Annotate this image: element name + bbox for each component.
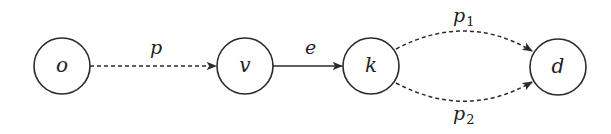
- graph-diagram: p e p1 p2 o v k: [0, 0, 611, 134]
- node-d: d: [530, 39, 586, 95]
- node-k: k: [343, 38, 399, 94]
- node-k-label: k: [365, 53, 377, 77]
- node-v-label: v: [239, 53, 251, 77]
- edge-o-v-label: p: [150, 36, 162, 58]
- edge-k-d-lower: p2: [396, 82, 532, 127]
- edge-o-v: p: [90, 36, 216, 66]
- diagram-svg: p e p1 p2 o v k: [0, 0, 611, 134]
- edge-k-d-lower-path: [396, 82, 532, 101]
- edge-v-k-label: e: [305, 36, 316, 58]
- node-o: o: [34, 38, 90, 94]
- edge-v-k: e: [273, 36, 342, 66]
- edge-k-d-upper-label: p1: [453, 4, 474, 29]
- edge-k-d-upper-path: [396, 31, 532, 51]
- node-o-label: o: [56, 53, 68, 77]
- node-d-label: d: [552, 54, 565, 78]
- node-v: v: [217, 38, 273, 94]
- edge-k-d-upper: p1: [396, 4, 532, 51]
- edge-k-d-lower-label: p2: [453, 102, 474, 127]
